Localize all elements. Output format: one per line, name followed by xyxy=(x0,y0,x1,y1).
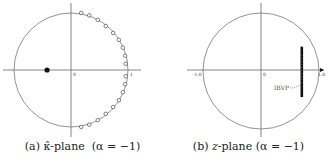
open-point xyxy=(104,112,108,116)
filled-point xyxy=(44,67,49,72)
panel-b-z-plane: 0 -1.0 1.0 IBVP (b) z-plane (α = −1) xyxy=(166,0,331,161)
origin-tick-label: 0 xyxy=(73,72,76,77)
open-point xyxy=(87,123,91,127)
open-point xyxy=(79,11,83,15)
open-point xyxy=(104,24,108,28)
origin-tick-label: 0 xyxy=(263,72,266,77)
caption-label: (b) xyxy=(193,140,209,153)
caption-b: (b) z-plane (α = −1) xyxy=(166,140,331,153)
open-point xyxy=(117,98,121,102)
open-point xyxy=(79,125,83,129)
panel-a-kappa-plane: 0 1 (a) κ̂-plane (α = −1) xyxy=(0,0,165,161)
ibvp-annotation-arrow xyxy=(290,85,300,88)
open-point xyxy=(111,31,115,35)
open-point xyxy=(117,38,121,42)
caption-param: (α = −1) xyxy=(256,140,304,153)
ibvp-annotation-label: IBVP xyxy=(274,84,289,91)
kappa-plane-plot: 0 1 xyxy=(0,0,165,140)
open-point xyxy=(121,46,125,50)
caption-plane: -plane xyxy=(218,140,252,153)
right-tick-label: 1 xyxy=(130,72,133,77)
open-point xyxy=(124,62,128,66)
open-point xyxy=(87,13,91,17)
caption-param: (α = −1) xyxy=(92,140,140,153)
open-point xyxy=(121,90,125,94)
open-point xyxy=(124,74,128,78)
z-plane-plot: 0 -1.0 1.0 IBVP xyxy=(166,0,331,140)
caption-plane: -plane xyxy=(50,140,84,153)
caption-label: (a) xyxy=(25,140,40,153)
right-tick-label: 1.0 xyxy=(318,72,325,77)
open-point xyxy=(123,82,127,86)
caption-a: (a) κ̂-plane (α = −1) xyxy=(0,140,165,153)
ibvp-eigenvalue-band xyxy=(301,47,304,97)
open-point xyxy=(96,18,100,22)
open-point xyxy=(96,118,100,122)
open-point xyxy=(111,105,115,109)
open-point xyxy=(123,54,127,58)
left-tick-label: -1.0 xyxy=(193,72,202,77)
